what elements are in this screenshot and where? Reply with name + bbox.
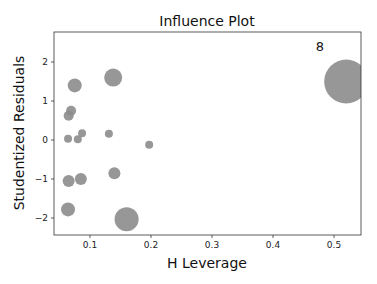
y-tick-label: −2 [35,213,48,223]
x-axis-label: H Leverage [167,255,247,271]
influence-plot: Influence Plot 0.10.20.30.40.5 210−1−2 8… [0,0,377,284]
data-point [63,175,75,187]
x-tick-label: 0.4 [266,240,281,250]
data-point [324,60,368,104]
data-point [108,167,120,179]
data-point [104,69,122,87]
x-axis-ticks: 0.10.20.30.40.5 [83,235,341,250]
x-tick-label: 0.5 [327,240,341,250]
data-point [61,202,75,216]
x-tick-label: 0.2 [144,240,158,250]
y-axis-ticks: 210−1−2 [35,57,54,223]
data-point [78,129,86,137]
data-point [64,135,72,143]
y-axis-label: Studentized Residuals [11,56,27,211]
x-tick-label: 0.1 [83,240,97,250]
chart-title: Influence Plot [159,13,255,29]
y-tick-label: 1 [42,96,48,106]
data-point [68,78,82,92]
data-point [115,207,139,231]
x-tick-label: 0.3 [205,240,219,250]
data-point [64,111,74,121]
y-tick-label: 0 [42,135,48,145]
point-annotation-8: 8 [316,39,324,54]
y-tick-label: −1 [35,174,48,184]
y-tick-label: 2 [42,57,48,67]
scatter-points [61,60,368,232]
data-point [75,173,87,185]
data-point [105,130,113,138]
data-point [145,141,153,149]
plot-frame [54,32,361,235]
